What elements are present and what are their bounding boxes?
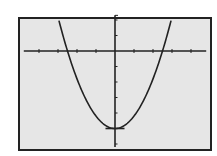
parabola-graph <box>0 0 217 156</box>
